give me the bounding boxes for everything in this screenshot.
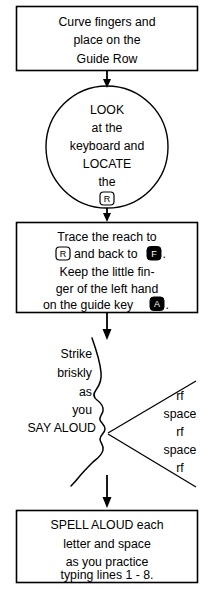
step3-line-5-pre: on the guide key bbox=[43, 298, 134, 312]
step4-left-line-2: briskly bbox=[57, 366, 93, 380]
step4-left-line-5: SAY ALOUD bbox=[27, 421, 96, 435]
step3-line-2-mid: and back to bbox=[74, 247, 138, 261]
key-f-letter: F bbox=[151, 249, 157, 259]
step5-line-1: SPELL ALOUD each bbox=[50, 518, 163, 532]
typing-practice-flowchart: Curve fingers and place on the Guide Row… bbox=[0, 0, 218, 589]
connector-step4-to-step5 bbox=[103, 475, 112, 508]
key-r-outline-icon-inline: R bbox=[56, 247, 70, 260]
step3-line-3: Keep the little fin- bbox=[59, 265, 154, 279]
step4-right-line-5: rf bbox=[176, 461, 184, 475]
step3-box: Trace the reach to R and back to F . Kee… bbox=[17, 223, 198, 313]
step2-line-3: keyboard and bbox=[70, 139, 145, 153]
step2-line-2: at the bbox=[92, 121, 123, 135]
step1-line-2: place on the bbox=[73, 33, 140, 47]
connector-step2-to-step3 bbox=[103, 208, 111, 222]
step5-box: SPELL ALOUD each letter and space as you… bbox=[17, 511, 198, 583]
step4-left-line-1: Strike bbox=[61, 347, 93, 361]
key-a-letter: A bbox=[154, 299, 160, 309]
step5-line-2: letter and space bbox=[63, 537, 151, 551]
step1-line-1: Curve fingers and bbox=[58, 15, 155, 29]
key-r-outline-icon: R bbox=[100, 192, 114, 205]
key-f-filled-icon: F bbox=[147, 247, 161, 261]
step4-right-line-4: space bbox=[164, 443, 197, 457]
step3-line-5-period: . bbox=[166, 298, 169, 312]
step4-right-line-1: rf bbox=[176, 389, 184, 403]
step3-line-4: ger of the left hand bbox=[56, 282, 159, 296]
key-r-letter-inline: R bbox=[60, 249, 67, 259]
step2-circle: LOOK at the keyboard and LOCATE the R bbox=[46, 86, 168, 208]
step4-left-line-3: as bbox=[79, 385, 92, 399]
step5-line-4: typing lines 1 - 8. bbox=[61, 568, 154, 582]
step4-right-line-3: rf bbox=[176, 425, 184, 439]
step4-left-line-4: you bbox=[72, 403, 92, 417]
connector-step3-to-step4 bbox=[103, 313, 112, 340]
step1-line-3: Guide Row bbox=[77, 52, 138, 66]
step3-line-2-period: . bbox=[163, 247, 166, 261]
step2-line-5: the bbox=[98, 175, 115, 189]
step3-line-1: Trace the reach to bbox=[57, 230, 156, 244]
step4-right-line-2: space bbox=[164, 407, 197, 421]
step1-box: Curve fingers and place on the Guide Row bbox=[17, 7, 198, 71]
key-r-letter: R bbox=[104, 194, 111, 204]
step4-speaking-profile: Strike briskly as you SAY ALOUD rf space… bbox=[27, 338, 196, 487]
step2-line-1: LOOK bbox=[90, 103, 125, 117]
step2-line-4: LOCATE bbox=[83, 157, 131, 171]
key-a-filled-icon: A bbox=[150, 297, 164, 311]
